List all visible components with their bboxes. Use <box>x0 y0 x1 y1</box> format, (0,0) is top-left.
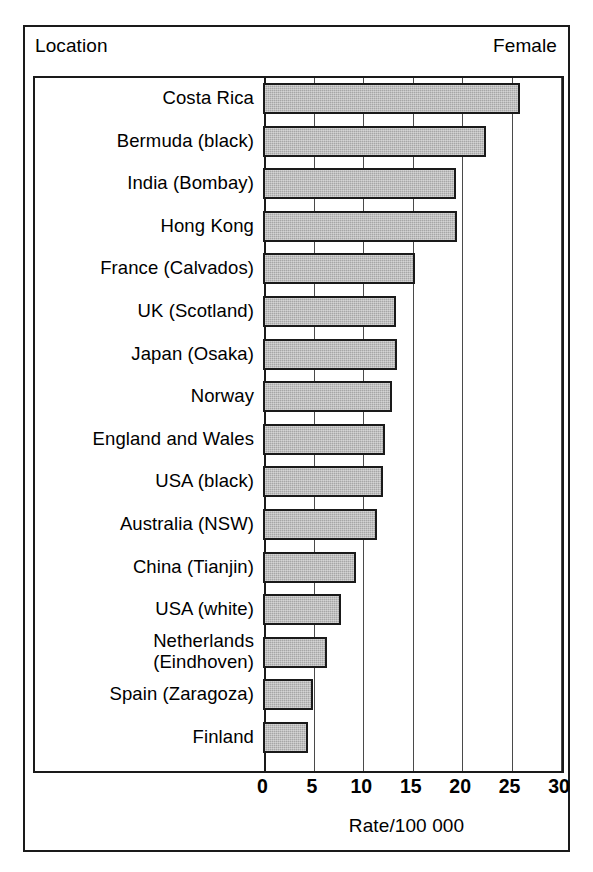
category-label: Costa Rica <box>163 87 254 108</box>
category-label: Hong Kong <box>161 215 254 236</box>
category-label: France (Calvados) <box>100 257 254 278</box>
bar-row <box>263 126 562 157</box>
category-label: USA (black) <box>155 470 254 491</box>
bar <box>263 552 356 583</box>
x-tick-25: 25 <box>499 775 521 798</box>
x-axis-tick-labels: 051015202530 <box>33 775 564 803</box>
bar <box>263 637 327 668</box>
bar-row <box>263 509 562 540</box>
bar <box>263 211 457 242</box>
bar-row <box>263 253 562 284</box>
category-label: China (Tianjin) <box>133 556 254 577</box>
category-label: Australia (NSW) <box>120 513 254 534</box>
header-female-legend: Female <box>493 35 557 57</box>
bars-plot-area <box>263 78 562 771</box>
header-location-label: Location <box>35 35 108 57</box>
x-tick-0: 0 <box>257 775 268 798</box>
x-tick-10: 10 <box>350 775 372 798</box>
bar <box>263 168 456 199</box>
category-labels-column: Costa RicaBermuda (black)India (Bombay)H… <box>35 78 263 771</box>
bar-row <box>263 211 562 242</box>
category-label: Netherlands (Eindhoven) <box>153 630 254 672</box>
bar-row <box>263 424 562 455</box>
bar-row <box>263 83 562 114</box>
bar <box>263 679 313 710</box>
category-label: England and Wales <box>93 428 254 449</box>
bar <box>263 466 383 497</box>
bar <box>263 339 397 370</box>
bar <box>263 253 415 284</box>
category-label: Japan (Osaka) <box>131 343 254 364</box>
bar <box>263 722 308 753</box>
x-tick-20: 20 <box>449 775 471 798</box>
category-label: Finland <box>193 726 254 747</box>
bar-row <box>263 552 562 583</box>
x-tick-15: 15 <box>400 775 422 798</box>
category-label: Bermuda (black) <box>117 130 254 151</box>
x-tick-30: 30 <box>548 775 570 798</box>
x-axis-title: Rate/100 000 <box>253 815 560 837</box>
category-label: Norway <box>191 385 254 406</box>
bar-row <box>263 168 562 199</box>
bar-row <box>263 594 562 625</box>
bar-row <box>263 637 562 668</box>
bar-row <box>263 296 562 327</box>
category-label: USA (white) <box>155 598 254 619</box>
chart-plot-frame: Costa RicaBermuda (black)India (Bombay)H… <box>33 76 564 773</box>
bar <box>263 296 396 327</box>
category-label: India (Bombay) <box>127 172 254 193</box>
bar-row <box>263 679 562 710</box>
bar <box>263 509 377 540</box>
bar-row <box>263 381 562 412</box>
bar-row <box>263 722 562 753</box>
category-label: UK (Scotland) <box>138 300 254 321</box>
bar-row <box>263 339 562 370</box>
bar <box>263 126 486 157</box>
chart-header: Location Female <box>25 27 568 75</box>
category-label: Spain (Zaragoza) <box>109 683 254 704</box>
bar <box>263 594 341 625</box>
bar-row <box>263 466 562 497</box>
figure-frame: Location Female Costa RicaBermuda (black… <box>23 25 570 852</box>
x-tick-5: 5 <box>306 775 317 798</box>
bar <box>263 83 520 114</box>
bar <box>263 381 392 412</box>
bar <box>263 424 385 455</box>
